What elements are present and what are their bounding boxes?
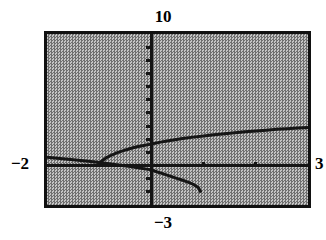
graph-viewport bbox=[44, 31, 311, 208]
x-min-label: −2 bbox=[11, 155, 29, 172]
x-max-label: 3 bbox=[315, 155, 323, 172]
graph-figure: 10 −2 3 −3 bbox=[0, 0, 326, 240]
curve-lower-left-branch bbox=[47, 157, 151, 170]
graph-plot-area bbox=[44, 31, 311, 208]
y-max-label: 10 bbox=[0, 8, 326, 25]
y-min-label: −3 bbox=[0, 214, 326, 231]
curves-layer bbox=[47, 127, 308, 192]
curve-lower-right-branch bbox=[151, 170, 201, 193]
curve-upper-branch bbox=[97, 127, 308, 166]
